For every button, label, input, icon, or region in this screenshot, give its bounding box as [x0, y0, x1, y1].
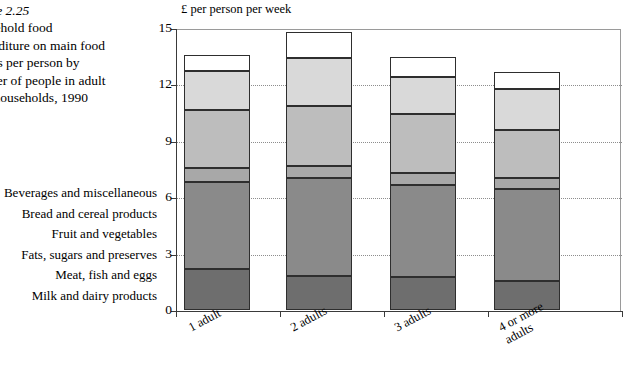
y-axis-title: £ per person per week: [181, 2, 291, 17]
bar-segment: [390, 57, 456, 77]
bar-segment: [494, 130, 560, 178]
bar-3: [390, 58, 456, 311]
caption-line-5: only households, 1990: [0, 89, 161, 106]
x-tick-mark-2: [384, 311, 385, 317]
legend-item-beverages: Beverages and miscellaneous: [0, 183, 161, 204]
figure-caption: Figure 2.25 Household food expenditure o…: [0, 2, 161, 106]
x-tick-mark-3: [488, 311, 489, 317]
bar-segment: [494, 178, 560, 188]
bar-segment: [390, 173, 456, 185]
y-tick-label-15: 15: [148, 20, 172, 36]
legend-item-milk: Milk and dairy products: [0, 286, 161, 307]
y-tick-label-9: 9: [148, 133, 172, 149]
figure-number: Figure 2.25: [0, 2, 161, 19]
bar-segment: [286, 178, 352, 276]
x-tick-mark-1: [280, 311, 281, 317]
caption-line-2: expenditure on main food: [0, 37, 161, 54]
chart-legend: Beverages and miscellaneous Bread and ce…: [0, 183, 161, 307]
bar-segment: [184, 168, 250, 182]
x-tick-mark-0: [176, 311, 177, 317]
legend-item-meat: Meat, fish and eggs: [0, 265, 161, 286]
bar-segment: [184, 71, 250, 110]
y-tick-label-3: 3: [148, 246, 172, 262]
bar-segment: [184, 269, 250, 310]
legend-item-fats: Fats, sugars and preserves: [0, 245, 161, 266]
bar-segment: [184, 110, 250, 168]
bar-segment: [184, 182, 250, 268]
caption-line-3: groups per person by: [0, 54, 161, 71]
bar-segment: [286, 166, 352, 178]
bar-segment: [184, 55, 250, 71]
bar-2: [286, 33, 352, 311]
legend-item-fruit: Fruit and vegetables: [0, 224, 161, 245]
bar-segment: [390, 77, 456, 115]
bar-segment: [494, 72, 560, 89]
caption-line-4: number of people in adult: [0, 72, 161, 89]
caption-line-1: Household food: [0, 19, 161, 36]
y-tick-label-12: 12: [148, 76, 172, 92]
y-tick-label-0: 0: [148, 302, 172, 318]
bar-segment: [286, 32, 352, 58]
bar-segment: [286, 106, 352, 166]
y-tick-label-6: 6: [148, 189, 172, 205]
legend-item-bread: Bread and cereal products: [0, 204, 161, 225]
bar-segment: [390, 114, 456, 172]
bar-segment: [494, 189, 560, 281]
bar-segment: [494, 89, 560, 130]
bar-segment: [390, 185, 456, 277]
bar-1: [184, 56, 250, 311]
bar-4: [494, 73, 560, 311]
bar-segment: [286, 58, 352, 106]
chart-page: Figure 2.25 Household food expenditure o…: [0, 0, 623, 371]
x-axis-line: [176, 311, 623, 312]
